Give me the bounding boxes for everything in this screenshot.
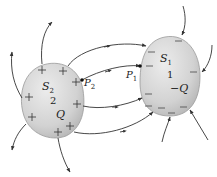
point-p1 (138, 64, 142, 68)
conductor-1-id: 1 (167, 69, 173, 80)
diagram-canvas: S2 2 Q S1 1 −Q P2 P1 (0, 0, 217, 177)
point-p1-label: P1 (125, 69, 137, 83)
conductor-1-charge: −Q (170, 82, 188, 95)
conductor-2-charge: Q (56, 108, 65, 121)
conductor-2-id: 2 (50, 95, 56, 106)
point-p2-label: P2 (83, 77, 95, 91)
